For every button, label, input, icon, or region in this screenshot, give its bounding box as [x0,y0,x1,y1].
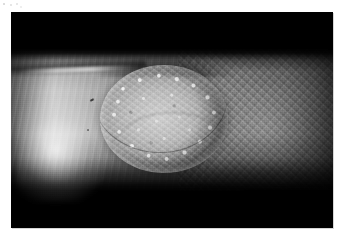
clinical-skin-lesion-photo [11,12,333,228]
skin-fleck-secondary [87,129,89,131]
lesion-rim-highlight [100,65,229,173]
page-canvas: skin of limb (forearm) with single raise… [0,0,343,240]
specular-highlight-secondary [224,85,308,167]
paper-speckle [2,2,24,10]
skin-lesion [100,65,229,173]
